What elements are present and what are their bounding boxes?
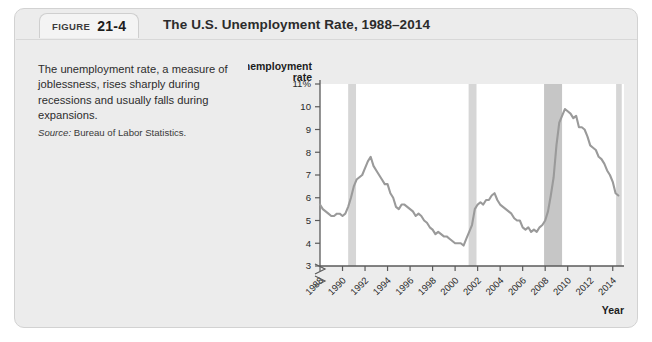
figure-header: FIGURE 21-4 The U.S. Unemployment Rate, …: [15, 9, 637, 43]
figure-badge-word: FIGURE: [52, 21, 90, 32]
figure-panel: FIGURE 21-4 The U.S. Unemployment Rate, …: [14, 8, 638, 328]
y-axis-title-line2: rate: [293, 71, 312, 83]
x-axis-ticks: 1988199019921994199619982000200220042006…: [303, 266, 618, 297]
caption-block: The unemployment rate, a measure of jobl…: [38, 62, 243, 138]
caption-source: Source: Bureau of Labor Statistics.: [38, 127, 243, 138]
y-tick-label: 10: [300, 101, 311, 112]
x-axis-title: Year: [602, 304, 624, 316]
caption-source-value: Bureau of Labor Statistics.: [74, 127, 187, 138]
x-tick-label: 1994: [370, 275, 393, 298]
x-tick-label: 1996: [393, 275, 416, 298]
x-tick-label: 2008: [528, 275, 551, 298]
caption-source-label: Source:: [38, 127, 71, 138]
figure-badge-number: 21-4: [97, 18, 126, 34]
caption-text: The unemployment rate, a measure of jobl…: [38, 62, 243, 123]
x-tick-label: 2010: [551, 275, 574, 298]
recession-band: [348, 84, 356, 266]
x-tick-label: 2014: [596, 275, 619, 298]
y-tick-label: 4: [306, 238, 312, 249]
x-tick-label: 1988: [303, 275, 326, 298]
y-tick-label: 3: [306, 260, 311, 271]
figure-badge: FIGURE 21-4: [39, 13, 139, 38]
y-tick-label: 8: [306, 147, 311, 158]
y-axis-ticks: 11%109876543: [293, 78, 321, 271]
unemployment-rate-chart: 11%109876543 198819901992199419961998200…: [248, 58, 630, 320]
x-tick-label: 1992: [348, 275, 371, 298]
y-tick-label: 9: [306, 124, 311, 135]
y-tick-label: 5: [306, 215, 311, 226]
figure-title: The U.S. Unemployment Rate, 1988–2014: [163, 17, 430, 32]
x-tick-label: 1990: [325, 275, 348, 298]
figure-body: The unemployment rate, a measure of jobl…: [16, 39, 637, 326]
x-tick-label: 2000: [438, 275, 461, 298]
x-tick-label: 2006: [506, 275, 529, 298]
chart-svg: 11%109876543 198819901992199419961998200…: [248, 58, 630, 320]
recession-band: [469, 84, 477, 266]
y-tick-label: 7: [306, 169, 311, 180]
x-tick-label: 2012: [573, 275, 596, 298]
x-tick-label: 2002: [461, 275, 484, 298]
recession-band: [616, 84, 622, 266]
y-tick-label: 6: [306, 192, 311, 203]
x-tick-label: 1998: [415, 275, 438, 298]
x-tick-label: 2004: [483, 275, 506, 298]
